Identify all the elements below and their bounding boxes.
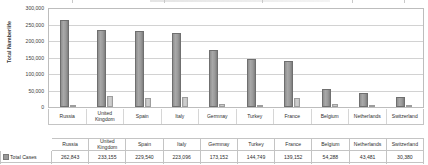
bar-group: [49, 8, 86, 107]
bar-total-deaths: [257, 105, 263, 107]
table-cell: 1588: [386, 163, 423, 165]
y-axis-tick: 200,000: [10, 38, 44, 44]
bar-total-cases: [284, 61, 293, 107]
category-label: Netherlands: [349, 109, 387, 124]
bar-total-deaths: [369, 105, 375, 107]
table-column-header: Netherlands: [349, 139, 386, 151]
y-axis-tick: 50,000: [10, 88, 44, 94]
table-cell: 27,378: [275, 163, 312, 165]
table-column-header: Germnay: [200, 139, 237, 151]
y-axis-tick: 150,000: [10, 55, 44, 61]
table-cell: 27,321: [126, 163, 163, 165]
table-cell: 30,380: [386, 151, 423, 163]
table-cell: 43,481: [349, 151, 386, 163]
table-cell: 229,540: [126, 151, 163, 163]
table-cell: 139,152: [275, 151, 312, 163]
table-row-header: Total Cases: [1, 151, 52, 163]
table-column-header: Belgium: [312, 139, 349, 151]
category-label: Belgium: [312, 109, 350, 124]
data-table: RussiaUnited KingdomSpainItalyGermnayTur…: [0, 138, 424, 164]
table-cell: 7824: [200, 163, 237, 165]
table-cell: 144,749: [237, 151, 274, 163]
bar-group: [386, 8, 423, 107]
clipped-tick: [352, 0, 353, 3]
bar-total-cases: [97, 30, 106, 107]
table-cell: 31,368: [163, 163, 200, 165]
table-cell: 173,152: [200, 151, 237, 163]
category-label: Switzerland: [387, 109, 424, 124]
bar-group: [311, 8, 348, 107]
table-corner-cell: [1, 139, 52, 151]
table-cell: 5590: [349, 163, 386, 165]
y-axis-tick: 0: [10, 104, 44, 110]
category-label: Russia: [49, 109, 87, 124]
bar-group: [199, 8, 236, 107]
bar-total-cases: [322, 89, 331, 107]
bar-total-cases: [247, 59, 256, 107]
y-axis-tick: 250,000: [10, 22, 44, 28]
table-column-header: Russia: [52, 139, 89, 151]
table-cell: 54,288: [312, 151, 349, 163]
table-row: Total Deaths241833,61427,32131,368782440…: [1, 163, 424, 165]
clipped-tick: [262, 0, 263, 3]
table-row: Total Cases262,843233,155229,540223,0961…: [1, 151, 424, 163]
bar-group: [236, 8, 273, 107]
category-label: Turkey: [237, 109, 275, 124]
bar-group-container: [49, 8, 423, 107]
legend-label: Total Cases: [10, 154, 37, 160]
y-axis-tick-labels: 300,000 250,000 200,000 150,000 100,000 …: [8, 5, 44, 107]
y-axis-tick: 100,000: [10, 71, 44, 77]
table-row-header: Total Deaths: [1, 163, 52, 165]
table-column-header: France: [275, 139, 312, 151]
bar-total-deaths: [294, 98, 300, 107]
table-cell: 233,155: [89, 151, 126, 163]
chart-area: Total Numberlife 300,000 250,000 200,000…: [0, 5, 428, 125]
legend-swatch-icon: [3, 154, 9, 160]
bar-group: [348, 8, 385, 107]
bar-total-cases: [359, 93, 368, 107]
clipped-title-ghost: [150, 0, 330, 2]
bar-total-cases: [135, 31, 144, 107]
bar-total-deaths: [219, 104, 225, 107]
table-cell: 33,614: [89, 163, 126, 165]
bar-group: [273, 8, 310, 107]
table-column-header: Italy: [163, 139, 200, 151]
bar-total-deaths: [182, 97, 188, 107]
bar-total-deaths: [70, 105, 76, 107]
y-axis-tick: 300,000: [10, 5, 44, 11]
table-cell: 4007: [237, 163, 274, 165]
table-cell: 8903: [312, 163, 349, 165]
table-cell: 262,843: [52, 151, 89, 163]
category-label: United Kingdom: [87, 109, 125, 124]
bar-total-cases: [209, 50, 218, 107]
plot-area: [48, 8, 424, 108]
category-label: Spain: [124, 109, 162, 124]
bar-total-cases: [396, 97, 405, 107]
clipped-tick: [404, 0, 405, 3]
bar-total-cases: [60, 20, 69, 107]
bar-total-deaths: [145, 98, 151, 107]
category-label: Germnay: [199, 109, 237, 124]
chart-screenshot: Total Numberlife 300,000 250,000 200,000…: [0, 0, 428, 164]
table-header-row: RussiaUnited KingdomSpainItalyGermnayTur…: [1, 139, 424, 151]
bar-group: [124, 8, 161, 107]
clipped-tick: [164, 0, 165, 3]
bar-total-deaths: [406, 105, 412, 107]
category-label: France: [274, 109, 312, 124]
category-label: Italy: [162, 109, 200, 124]
table-column-header: United Kingdom: [89, 139, 126, 151]
bar-group: [86, 8, 123, 107]
table-cell: 223,096: [163, 151, 200, 163]
table-column-header: Spain: [126, 139, 163, 151]
table-column-header: Switzerland: [386, 139, 423, 151]
table-cell: 2418: [52, 163, 89, 165]
table-column-header: Turkey: [237, 139, 274, 151]
bar-total-cases: [172, 33, 181, 107]
bar-group: [161, 8, 198, 107]
clipped-tick: [72, 0, 73, 3]
bar-total-deaths: [332, 104, 338, 107]
category-label-band: RussiaUnited KingdomSpainItalyGermnayTur…: [48, 109, 424, 125]
bar-total-deaths: [107, 96, 113, 107]
